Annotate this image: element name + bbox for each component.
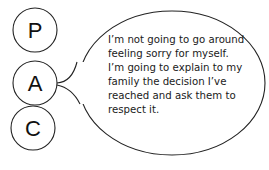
speech-line-6: respect it. bbox=[108, 103, 268, 117]
circle-p-label: P bbox=[28, 18, 43, 43]
circle-p: P bbox=[13, 8, 57, 52]
circle-a-label: A bbox=[28, 71, 43, 96]
circle-c: C bbox=[11, 106, 55, 150]
speech-line-4: family the decision I’ve bbox=[108, 75, 268, 89]
speech-line-1: I’m not going to go around bbox=[108, 33, 268, 47]
speech-bubble-tail-fill bbox=[57, 62, 84, 104]
speech-line-5: reached and ask them to bbox=[108, 89, 268, 103]
circle-a: A bbox=[13, 61, 57, 105]
speech-line-2: feeling sorry for myself. bbox=[108, 47, 268, 61]
circle-c-label: C bbox=[25, 116, 41, 141]
speech-bubble-text: I’m not going to go around feeling sorry… bbox=[108, 33, 268, 118]
speech-line-3: I’m going to explain to my bbox=[108, 61, 268, 75]
